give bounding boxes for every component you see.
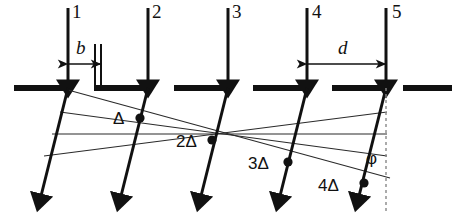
wavefront-dot-2	[207, 135, 216, 144]
beam-label-5: 5	[392, 2, 402, 21]
grating-segment-6	[403, 85, 452, 91]
grating-segment-4	[253, 85, 311, 91]
diffracted-beam-4	[279, 88, 307, 200]
beam-label-3: 3	[232, 2, 242, 21]
dimension-label-d: d	[338, 38, 348, 57]
grating-segment-2	[94, 85, 152, 91]
wavefront-dot-1	[135, 113, 144, 122]
beam-label-1: 1	[72, 2, 82, 21]
wavefront-dot-3	[283, 157, 292, 166]
path-difference-label-4: 4Δ	[318, 177, 339, 194]
diagram-vector-layer	[0, 0, 460, 216]
grating-segment-3	[174, 85, 232, 91]
beam-label-2: 2	[152, 2, 162, 21]
beam-label-4: 4	[312, 2, 322, 21]
path-difference-label-1: Δ	[113, 110, 124, 127]
grating-segment-5	[332, 85, 390, 91]
diffracted-beam-1	[40, 88, 68, 200]
grating-segment-1	[14, 85, 72, 91]
dimension-label-b: b	[76, 38, 86, 57]
angle-label-phi: φ	[366, 150, 377, 167]
wavefront-dot-4	[359, 178, 368, 187]
path-difference-label-2: 2Δ	[176, 133, 197, 150]
path-difference-label-3: 3Δ	[248, 155, 269, 172]
figure-canvas: 1 2 3 4 5 b d Δ 2Δ 3Δ 4Δ φ	[0, 0, 460, 216]
